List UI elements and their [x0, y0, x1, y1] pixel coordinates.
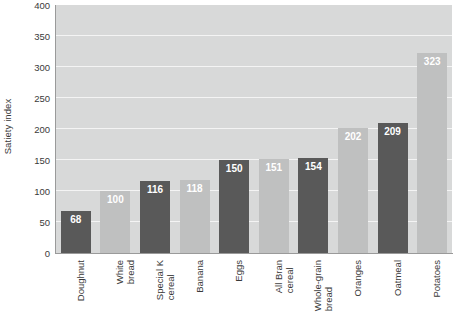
x-axis-category-label: All Brancereal	[254, 256, 294, 325]
bar[interactable]: 118	[180, 180, 210, 253]
bar-value-label: 323	[417, 56, 447, 67]
x-axis-category-label: Oatmeal	[373, 256, 413, 325]
x-axis-category-text: Whitebread	[115, 260, 136, 284]
y-axis-tick-label: 100	[34, 186, 50, 197]
y-axis-tick-label: 250	[34, 93, 50, 104]
bar[interactable]: 209	[378, 123, 408, 253]
y-axis-line	[55, 5, 56, 254]
x-axis-category-text: Doughnut	[76, 260, 87, 301]
bar[interactable]: 116	[140, 181, 170, 253]
x-axis-category-text: Special Kcereal	[155, 260, 176, 300]
y-axis-tick-labels: 050100150200250300350400	[16, 0, 54, 258]
x-axis-category-label: Eggs	[214, 256, 254, 325]
x-axis-category-text: Banana	[195, 260, 206, 293]
x-axis-category-text: All Brancereal	[274, 260, 295, 293]
gridline	[56, 97, 452, 99]
y-axis-title: Satiety index	[0, 0, 16, 253]
bar[interactable]: 154	[298, 158, 328, 253]
bar[interactable]: 202	[338, 128, 368, 253]
y-axis-tick-label: 350	[34, 31, 50, 42]
plot-area: 68100116118150151154202209323	[56, 5, 452, 253]
x-axis-category-label: Whitebread	[96, 256, 136, 325]
bar-value-label: 154	[298, 161, 328, 172]
bar-value-label: 68	[61, 214, 91, 225]
bar[interactable]: 68	[61, 211, 91, 253]
x-axis-category-label: Banana	[175, 256, 215, 325]
bar-value-label: 100	[100, 194, 130, 205]
x-axis-category-labels: DoughnutWhitebreadSpecial KcerealBananaE…	[56, 256, 452, 325]
x-axis-category-text: Oranges	[353, 260, 364, 296]
bar[interactable]: 323	[417, 53, 447, 253]
bar[interactable]: 100	[100, 191, 130, 253]
x-axis-category-text: Eggs	[234, 260, 245, 282]
satiety-index-bar-chart: Satiety index 050100150200250300350400 6…	[0, 0, 456, 325]
gridline	[56, 66, 452, 68]
y-axis-tick-label: 400	[34, 0, 50, 11]
bar[interactable]: 150	[219, 160, 249, 253]
bar[interactable]: 151	[259, 159, 289, 253]
x-axis-category-label: Oranges	[333, 256, 373, 325]
gridline	[56, 35, 452, 37]
y-axis-tick-label: 300	[34, 62, 50, 73]
x-axis-category-label: Special Kcereal	[135, 256, 175, 325]
x-axis-category-text: Oatmeal	[393, 260, 404, 296]
y-axis-tick-label: 0	[45, 248, 50, 259]
x-axis-category-text: Potatoes	[432, 260, 443, 298]
x-axis-category-text: Whole-grainbread	[313, 260, 334, 311]
x-axis-category-label: Potatoes	[412, 256, 452, 325]
y-axis-tick-label: 200	[34, 124, 50, 135]
x-axis-category-label: Doughnut	[56, 256, 96, 325]
y-axis-title-label: Satiety index	[3, 99, 14, 155]
y-axis-tick-label: 150	[34, 155, 50, 166]
x-axis-line	[55, 253, 453, 254]
y-axis-tick-label: 50	[39, 217, 50, 228]
bar-value-label: 151	[259, 162, 289, 173]
bar-value-label: 118	[180, 183, 210, 194]
bar-value-label: 209	[378, 126, 408, 137]
x-axis-category-label: Whole-grainbread	[294, 256, 334, 325]
bar-value-label: 150	[219, 163, 249, 174]
bar-value-label: 202	[338, 131, 368, 142]
bar-value-label: 116	[140, 184, 170, 195]
